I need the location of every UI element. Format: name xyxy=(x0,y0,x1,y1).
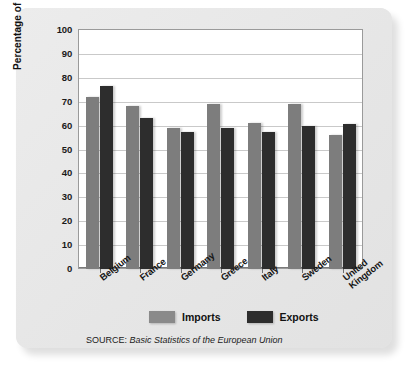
source-prefix: SOURCE: xyxy=(86,335,130,345)
y-tick-0: 0 xyxy=(38,263,72,274)
y-tick-70: 70 xyxy=(38,95,72,106)
legend-label-imports: Imports xyxy=(182,311,221,323)
bar-exports-greece xyxy=(221,128,234,269)
bar-group xyxy=(84,30,124,269)
bar-imports-belgium xyxy=(86,97,99,269)
chart-card: Percentage of Total Trade 10090807060504… xyxy=(16,8,392,348)
bar-imports-germany xyxy=(167,128,180,269)
y-tick-60: 60 xyxy=(38,119,72,130)
y-tick-10: 10 xyxy=(38,239,72,250)
bar-imports-france xyxy=(126,106,139,269)
y-axis-title: Percentage of Total Trade xyxy=(12,0,23,70)
y-tick-100: 100 xyxy=(38,24,72,35)
bar-imports-sweden xyxy=(288,104,301,269)
legend-swatch-imports xyxy=(149,311,175,323)
bar-exports-france xyxy=(140,118,153,269)
bar-group xyxy=(165,30,205,269)
bar-group xyxy=(286,30,326,269)
y-tick-90: 90 xyxy=(38,47,72,58)
bar-exports-germany xyxy=(181,132,194,269)
y-tick-30: 30 xyxy=(38,191,72,202)
bar-exports-belgium xyxy=(100,86,113,269)
y-tick-80: 80 xyxy=(38,71,72,82)
source-note: SOURCE: Basic Statistics of the European… xyxy=(86,335,283,345)
y-tick-40: 40 xyxy=(38,167,72,178)
legend-label-exports: Exports xyxy=(280,311,319,323)
bar-group xyxy=(327,30,367,269)
bar-group xyxy=(124,30,164,269)
bar-group xyxy=(246,30,286,269)
source-title: Basic Statistics of the European Union xyxy=(130,335,283,345)
bar-group xyxy=(205,30,245,269)
bar-imports-greece xyxy=(207,104,220,269)
chart-legend: Imports Exports xyxy=(149,311,319,323)
chart-screenshot: Percentage of Total Trade 10090807060504… xyxy=(0,0,417,368)
bar-exports-sweden xyxy=(302,126,315,269)
bar-series-container xyxy=(79,30,362,269)
y-tick-20: 20 xyxy=(38,215,72,226)
bar-exports-italy xyxy=(262,132,275,269)
bar-imports-united-kingdom xyxy=(329,135,342,269)
legend-swatch-exports xyxy=(247,311,273,323)
bar-exports-united-kingdom xyxy=(343,124,356,269)
bar-imports-italy xyxy=(248,123,261,269)
y-tick-50: 50 xyxy=(38,143,72,154)
